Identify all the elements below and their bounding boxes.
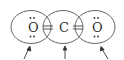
co2-diagram: O C O <box>0 0 124 60</box>
atom-oxygen-right: O <box>92 20 103 35</box>
atom-carbon: C <box>59 20 69 35</box>
atom-oxygen-left: O <box>28 20 39 35</box>
double-bond-left <box>43 26 53 29</box>
arrow-left <box>24 46 31 59</box>
arrow-middle <box>63 46 67 59</box>
double-bond-right <box>73 26 83 29</box>
arrow-right <box>100 47 108 60</box>
